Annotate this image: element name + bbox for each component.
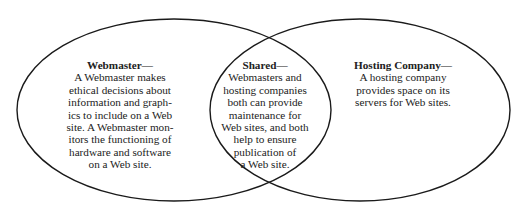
webmaster-line: hardware and software <box>50 146 190 158</box>
shared-line: help to ensure <box>215 133 315 145</box>
shared-line: Webmasters and <box>215 71 315 83</box>
shared-line: hosting companies <box>215 84 315 96</box>
webmaster-line: ethical decisions about <box>50 84 190 96</box>
webmaster-line: A Webmaster makes <box>50 71 190 83</box>
venn-diagram: Webmaster— A Webmaster makes ethical dec… <box>0 0 521 207</box>
webmaster-line: information and graph- <box>50 96 190 108</box>
hosting-company-title: Hosting Company— <box>345 59 461 71</box>
hosting-company-line: A hosting company <box>345 71 461 83</box>
webmaster-text-block: Webmaster— A Webmaster makes ethical dec… <box>50 59 190 171</box>
shared-line: publication of <box>215 146 315 158</box>
shared-line: a Web site. <box>215 158 315 170</box>
shared-line: maintenance for <box>215 109 315 121</box>
hosting-company-text-block: Hosting Company— A hosting company provi… <box>345 59 461 109</box>
webmaster-line: site. A Webmaster mon- <box>50 121 190 133</box>
webmaster-title: Webmaster— <box>50 59 190 71</box>
webmaster-line: itors the functioning of <box>50 133 190 145</box>
shared-text-block: Shared— Webmasters and hosting companies… <box>215 59 315 171</box>
webmaster-line: on a Web site. <box>50 158 190 170</box>
shared-title: Shared— <box>215 59 315 71</box>
shared-line: Web sites, and both <box>215 121 315 133</box>
webmaster-line: ics to include on a Web <box>50 109 190 121</box>
shared-line: both can provide <box>215 96 315 108</box>
hosting-company-line: provides space on its <box>345 84 461 96</box>
hosting-company-line: servers for Web sites. <box>345 96 461 108</box>
